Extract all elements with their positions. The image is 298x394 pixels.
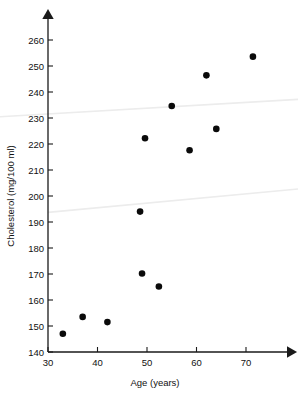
y-tick-label: 160 — [28, 295, 44, 306]
x-tick-label: 30 — [43, 357, 54, 368]
y-tick-label: 140 — [28, 347, 44, 358]
y-tick-label: 240 — [28, 87, 44, 98]
data-point — [156, 283, 163, 290]
data-point — [250, 53, 257, 60]
y-tick-label: 230 — [28, 113, 44, 124]
x-tick-label: 50 — [142, 357, 153, 368]
upper-trend-line — [0, 99, 298, 116]
y-tick-label: 150 — [28, 321, 44, 332]
y-tick-label: 200 — [28, 191, 44, 202]
y-tick-label: 210 — [28, 165, 44, 176]
data-point — [137, 208, 144, 215]
data-point — [203, 72, 210, 79]
data-point — [104, 319, 111, 326]
y-tick-label: 170 — [28, 269, 44, 280]
y-tick-label: 220 — [28, 139, 44, 150]
data-point — [139, 270, 146, 277]
x-axis-tick-labels: 30 40 50 60 70 — [43, 357, 252, 368]
x-axis-ticks — [48, 347, 246, 352]
y-axis-title: Cholesterol (mg/100 ml) — [5, 145, 16, 246]
data-point — [79, 314, 86, 321]
x-tick-label: 40 — [92, 357, 103, 368]
data-point — [142, 135, 149, 142]
y-tick-label: 260 — [28, 35, 44, 46]
y-axis-tick-labels: 260 250 240 230 220 210 200 190 180 170 … — [28, 35, 44, 358]
x-tick-label: 70 — [241, 357, 252, 368]
y-axis-ticks — [48, 40, 53, 352]
data-point — [60, 331, 67, 338]
x-tick-label: 60 — [191, 357, 202, 368]
x-axis-title: Age (years) — [130, 377, 179, 388]
trend-lines-group — [0, 99, 298, 212]
y-tick-label: 180 — [28, 243, 44, 254]
y-tick-label: 250 — [28, 61, 44, 72]
data-point — [213, 126, 220, 133]
data-point — [186, 147, 193, 154]
scatter-plot-figure: 260 250 240 230 220 210 200 190 180 170 … — [0, 0, 298, 394]
data-point — [168, 103, 175, 110]
y-tick-label: 190 — [28, 217, 44, 228]
lower-trend-line — [48, 189, 298, 212]
chart-canvas: 260 250 240 230 220 210 200 190 180 170 … — [0, 0, 298, 394]
